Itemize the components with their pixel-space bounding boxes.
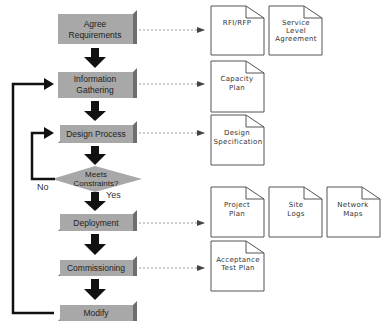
- svg-text:Service: Service: [282, 19, 310, 27]
- decision-no-label: No: [37, 182, 49, 192]
- svg-text:RFI/RFP: RFI/RFP: [223, 19, 252, 27]
- decision-meets-constraints: Meets Constraints?: [52, 166, 142, 192]
- svg-text:Agreement: Agreement: [275, 35, 317, 43]
- document-connectors: [139, 30, 204, 268]
- decision-yes-label: Yes: [106, 190, 121, 200]
- svg-text:Test Plan: Test Plan: [220, 264, 255, 272]
- document-network-maps: Network Maps: [327, 187, 380, 237]
- document-acceptance-test-plan: Acceptance Test Plan: [211, 241, 264, 291]
- process-box-information-gathering: Information Gathering: [58, 68, 137, 98]
- process-label: Gathering: [76, 85, 114, 95]
- arrow-down-icon: [84, 192, 106, 211]
- modify-loop-arrow: [13, 78, 54, 313]
- arrow-down-icon: [84, 101, 106, 121]
- process-label: Information: [74, 74, 117, 84]
- no-loop-arrow: [32, 127, 55, 179]
- arrow-down-icon: [84, 48, 106, 68]
- decision-label: Constraints?: [74, 179, 119, 188]
- svg-text:Plan: Plan: [229, 210, 245, 218]
- process-label: Agree: [84, 19, 107, 29]
- process-box-modify: Modify: [58, 301, 137, 321]
- flowchart-canvas: Agree Requirements Information Gathering…: [0, 0, 387, 331]
- svg-text:Network: Network: [337, 201, 369, 209]
- svg-text:Plan: Plan: [229, 84, 245, 92]
- process-label: Commissioning: [67, 263, 125, 273]
- process-box-deployment: Deployment: [58, 210, 137, 231]
- process-label: Design Process: [66, 129, 126, 139]
- document-rfi-rfp: RFI/RFP: [211, 6, 264, 55]
- process-box-agree: Agree Requirements: [58, 10, 137, 44]
- document-service-level-agreement: Service Level Agreement: [269, 6, 322, 55]
- document-design-specification: Design Specification: [211, 115, 264, 165]
- document-capacity-plan: Capacity Plan: [211, 61, 264, 112]
- svg-text:Logs: Logs: [287, 210, 304, 218]
- svg-text:Capacity: Capacity: [221, 75, 254, 83]
- arrow-down-icon: [84, 279, 106, 300]
- document-site-logs: Site Logs: [269, 187, 322, 237]
- svg-text:Project: Project: [224, 201, 250, 209]
- process-box-design-process: Design Process: [58, 121, 137, 143]
- svg-text:Level: Level: [286, 27, 306, 35]
- svg-text:Site: Site: [289, 201, 304, 209]
- svg-text:Design: Design: [224, 129, 250, 137]
- svg-text:Maps: Maps: [343, 210, 363, 218]
- decision-label: Meets: [85, 170, 107, 179]
- process-label: Deployment: [73, 218, 119, 228]
- svg-text:Acceptance: Acceptance: [216, 256, 260, 264]
- document-project-plan: Project Plan: [211, 187, 264, 237]
- process-label: Modify: [83, 308, 109, 318]
- process-box-commissioning: Commissioning: [58, 256, 137, 276]
- process-label: Requirements: [69, 30, 122, 40]
- arrow-down-icon: [84, 234, 106, 255]
- arrow-down-icon: [84, 146, 106, 165]
- svg-text:Specification: Specification: [214, 138, 263, 146]
